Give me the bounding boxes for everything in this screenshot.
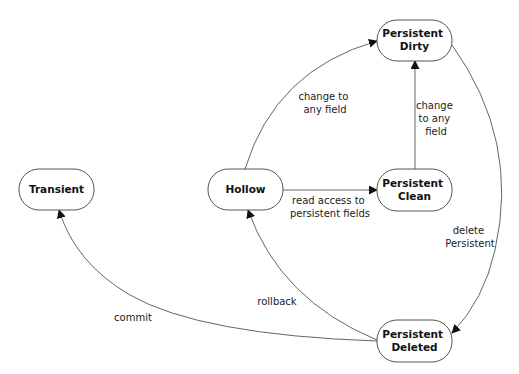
edge-hollow-to-dirty: change to any field <box>245 41 377 169</box>
edge-deleted-to-transient: commit <box>59 210 377 341</box>
edge-deleted-to-transient-label: commit <box>114 312 152 323</box>
state-node-persistent-deleted-label: Persistent Deleted <box>382 328 446 353</box>
edge-dirty-to-deleted-label: delete Persistent <box>445 225 495 249</box>
edge-hollow-to-clean: read access to persistent fields <box>283 190 377 219</box>
edge-hollow-to-dirty-label: change to any field <box>298 91 351 115</box>
edge-clean-to-dirty-label: change to any field <box>416 100 456 137</box>
state-node-hollow[interactable]: Hollow <box>208 169 283 210</box>
edge-deleted-to-hollow: rollback <box>248 210 377 340</box>
edge-deleted-to-transient-line <box>59 210 377 341</box>
state-node-persistent-dirty[interactable]: Persistent Dirty <box>377 20 452 61</box>
edge-dirty-to-deleted: delete Persistent <box>445 45 501 333</box>
edge-clean-to-dirty: change to any field <box>415 61 456 169</box>
edge-hollow-to-clean-label: read access to persistent fields <box>290 195 370 219</box>
state-node-persistent-clean[interactable]: Persistent Clean <box>377 169 452 211</box>
edge-deleted-to-hollow-line <box>248 210 377 340</box>
state-node-transient[interactable]: Transient <box>19 169 94 210</box>
edge-deleted-to-hollow-label: rollback <box>257 296 297 307</box>
state-node-persistent-deleted[interactable]: Persistent Deleted <box>377 320 452 362</box>
nodes: Transient Hollow Persistent Clean Persis… <box>19 20 452 362</box>
state-node-hollow-label: Hollow <box>225 183 265 195</box>
edge-dirty-to-deleted-line <box>452 45 502 333</box>
state-node-transient-label: Transient <box>29 183 84 195</box>
state-diagram: read access to persistent fields change … <box>0 0 519 374</box>
